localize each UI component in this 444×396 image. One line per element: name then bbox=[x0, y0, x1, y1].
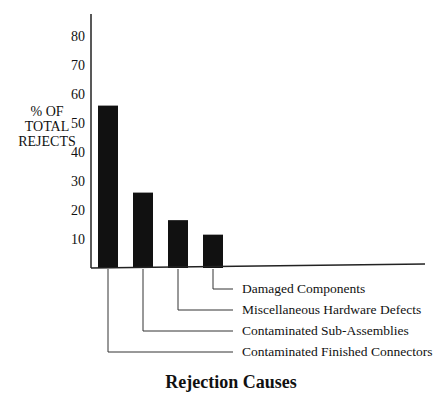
category-label: Contaminated Finished Connectors bbox=[242, 344, 432, 359]
y-tick-label: 50 bbox=[71, 116, 85, 131]
y-axis-label-line: REJECTS bbox=[18, 134, 76, 149]
bar bbox=[203, 235, 223, 268]
category-label: Contaminated Sub-Assemblies bbox=[242, 323, 409, 338]
y-tick-label: 70 bbox=[71, 58, 85, 73]
y-tick-label: 40 bbox=[71, 145, 85, 160]
category-label: Miscellaneous Hardware Defects bbox=[242, 302, 421, 317]
category-leader-lines bbox=[108, 269, 233, 352]
bar bbox=[133, 193, 153, 268]
y-tick-label: 10 bbox=[71, 232, 85, 247]
category-label: Damaged Components bbox=[242, 281, 365, 296]
y-tick-label: 30 bbox=[71, 174, 85, 189]
y-tick-label: 60 bbox=[71, 87, 85, 102]
y-axis-label-line: % OF bbox=[30, 104, 63, 119]
y-axis-label-line: TOTAL bbox=[25, 119, 70, 134]
y-tick-label: 20 bbox=[71, 203, 85, 218]
bar bbox=[98, 106, 118, 268]
leader-line bbox=[213, 269, 233, 289]
leader-line bbox=[143, 269, 233, 331]
bars bbox=[98, 106, 223, 268]
chart-title: Rejection Causes bbox=[165, 372, 296, 392]
y-tick-label: 80 bbox=[71, 29, 85, 44]
pareto-bar-chart: % OFTOTALREJECTS 1020304050607080 Contam… bbox=[0, 0, 444, 396]
category-labels: Contaminated Finished ConnectorsContamin… bbox=[242, 281, 432, 359]
bar bbox=[168, 220, 188, 268]
y-axis-label: % OFTOTALREJECTS bbox=[18, 104, 76, 149]
